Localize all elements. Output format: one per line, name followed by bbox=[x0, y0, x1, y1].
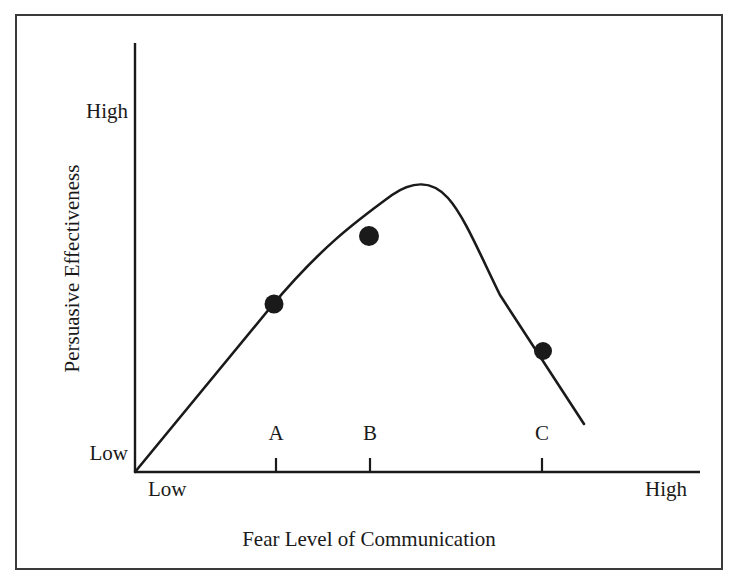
figure-root: High Low Persuasive Effectiveness Low Hi… bbox=[0, 0, 738, 584]
chart-plot-area bbox=[0, 0, 738, 584]
data-point-c[interactable] bbox=[534, 342, 552, 360]
x-axis-title: Fear Level of Communication bbox=[15, 527, 723, 552]
point-label-a: A bbox=[256, 421, 296, 446]
x-tick-label-high: High bbox=[645, 477, 687, 502]
data-point-a[interactable] bbox=[265, 295, 284, 314]
point-label-c: C bbox=[522, 421, 562, 446]
data-point-b[interactable] bbox=[359, 226, 379, 246]
point-label-b: B bbox=[350, 421, 390, 446]
x-tick-label-low: Low bbox=[148, 477, 187, 502]
y-axis-title: Persuasive Effectiveness bbox=[60, 109, 85, 429]
y-tick-label-low: Low bbox=[52, 441, 128, 466]
